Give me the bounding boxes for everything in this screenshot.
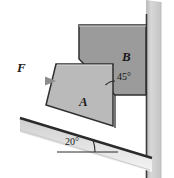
vertical-wall — [146, 0, 161, 178]
angle-45-label: 45° — [117, 72, 131, 82]
wall-surface — [146, 0, 161, 178]
force-label: F — [17, 61, 26, 74]
ground-thickness — [20, 118, 152, 172]
ground-lower-edge — [20, 130, 150, 170]
mechanics-figure: F A B 45° 20° — [0, 0, 174, 178]
force-arrow-group — [18, 77, 56, 86]
angle-20-label: 20° — [65, 137, 79, 147]
inclined-ground — [20, 118, 152, 172]
figure-canvas — [0, 0, 174, 178]
block-a-label: A — [79, 95, 88, 108]
block-b-label: B — [122, 50, 131, 63]
